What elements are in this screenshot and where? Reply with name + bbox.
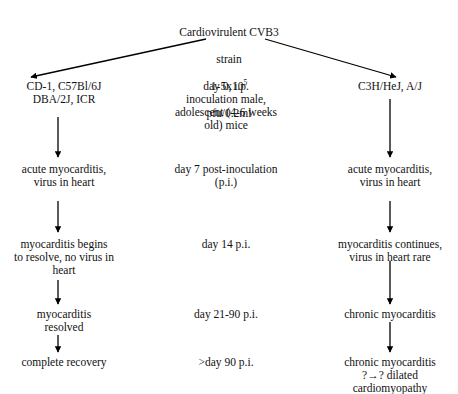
node-middle-step-4: >day 90 p.i. (141, 356, 311, 369)
node-right-step-2: myocarditis continues, virus in heart ra… (326, 238, 454, 264)
node-left-header: CD-1, C57Bl/6J DBA/2J, ICR (0, 80, 128, 106)
node-right-step-1: acute myocarditis, virus in heart (326, 163, 454, 189)
node-middle-header: day 0, i.p. inoculation male, adolescent… (141, 80, 311, 132)
node-middle-step-1: day 7 post-inoculation (p.i.) (141, 163, 311, 189)
title-line-2: strain (149, 53, 309, 67)
node-left-step-4: complete recovery (0, 356, 128, 369)
node-middle-step-3: day 21-90 p.i. (141, 308, 311, 321)
flowchart-figure: Cardiovirulent CVB3 strain 1-5x105 pfu/0… (0, 0, 458, 394)
node-left-step-3: myocarditis resolved (0, 308, 128, 334)
node-right-step-3: chronic myocarditis (326, 308, 454, 321)
node-left-step-1: acute myocarditis, virus in heart (0, 163, 128, 189)
node-left-step-2: myocarditis begins to resolve, no virus … (0, 238, 128, 277)
title-line-1: Cardiovirulent CVB3 (149, 26, 309, 40)
node-right-step-4: chronic myocarditis ?→? dilated cardiomy… (326, 356, 454, 394)
node-middle-step-2: day 14 p.i. (141, 238, 311, 251)
node-right-header: C3H/HeJ, A/J (326, 80, 454, 93)
